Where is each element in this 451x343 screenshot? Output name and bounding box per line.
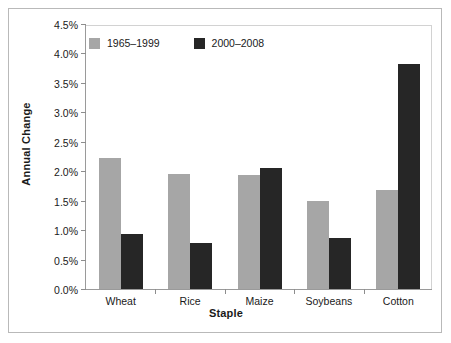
y-axis-tick-label: 1.0% xyxy=(54,225,78,237)
y-axis-tick-mark xyxy=(81,112,86,113)
y-axis-tick-label: 4.0% xyxy=(54,48,78,60)
x-axis-tick-mark xyxy=(294,289,295,294)
plot-frame-top xyxy=(86,25,432,26)
y-axis-tick-mark xyxy=(81,201,86,202)
x-axis-title: Staple xyxy=(9,307,443,319)
y-axis-tick: 2.0% xyxy=(38,166,86,178)
y-axis-tick-mark xyxy=(81,53,86,54)
y-axis-tick-mark xyxy=(81,260,86,261)
plot-frame-right xyxy=(431,25,432,289)
bar-soybeans-series-b xyxy=(329,238,351,289)
y-axis-tick-label: 3.0% xyxy=(54,107,78,119)
y-axis-tick-label: 0.5% xyxy=(54,255,78,267)
y-axis-tick-label: 2.0% xyxy=(54,166,78,178)
y-axis-tick-mark xyxy=(81,230,86,231)
y-axis-tick: 4.0% xyxy=(38,48,86,60)
y-axis-tick-mark xyxy=(81,289,86,290)
bar-cotton-series-b xyxy=(398,64,420,289)
y-axis-title: Annual Change xyxy=(20,64,32,224)
y-axis-tick-mark xyxy=(81,24,86,25)
y-axis-tick: 3.5% xyxy=(38,78,86,90)
y-axis-tick-label: 2.5% xyxy=(54,137,78,149)
y-axis-tick: 0.5% xyxy=(38,255,86,267)
bar-maize-series-a xyxy=(238,175,260,289)
x-axis-tick-mark xyxy=(364,289,365,294)
legend-swatch-icon xyxy=(89,38,100,49)
y-axis-tick: 3.0% xyxy=(38,107,86,119)
x-axis-label-cotton: Cotton xyxy=(343,295,451,307)
y-axis-tick-mark xyxy=(81,83,86,84)
y-axis-tick-label: 3.5% xyxy=(54,78,78,90)
legend-label: 2000–2008 xyxy=(212,37,265,49)
legend-label: 1965–1999 xyxy=(107,37,160,49)
y-axis-tick-label: 4.5% xyxy=(54,19,78,31)
bar-wheat-series-b xyxy=(121,234,143,289)
x-axis-tick-mark xyxy=(225,289,226,294)
y-axis-tick: 1.5% xyxy=(38,196,86,208)
chart-figure: Annual Change Staple 0.0%0.5%1.0%1.5%2.0… xyxy=(8,8,442,333)
legend-entry-series-b: 2000–2008 xyxy=(194,37,265,49)
bar-rice-series-b xyxy=(190,243,212,289)
chart-legend: 1965–19992000–2008 xyxy=(89,37,264,49)
y-axis-tick-mark xyxy=(81,142,86,143)
y-axis-tick: 1.0% xyxy=(38,225,86,237)
y-axis-tick: 4.5% xyxy=(38,19,86,31)
bar-soybeans-series-a xyxy=(307,201,329,289)
bar-wheat-series-a xyxy=(99,158,121,289)
y-axis-tick: 2.5% xyxy=(38,137,86,149)
plot-area: 0.0%0.5%1.0%1.5%2.0%2.5%3.0%3.5%4.0%4.5%… xyxy=(85,25,432,290)
legend-swatch-icon xyxy=(194,38,205,49)
bar-rice-series-a xyxy=(168,174,190,289)
bar-cotton-series-a xyxy=(376,190,398,289)
y-axis-tick-label: 1.5% xyxy=(54,196,78,208)
bar-maize-series-b xyxy=(260,168,282,289)
y-axis-tick-mark xyxy=(81,171,86,172)
x-axis-tick-mark xyxy=(155,289,156,294)
legend-entry-series-a: 1965–1999 xyxy=(89,37,160,49)
